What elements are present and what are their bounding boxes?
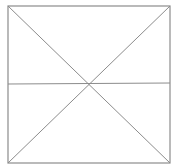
diagram-lines <box>8 6 170 163</box>
diagram-canvas <box>0 0 180 168</box>
horizontal-midline-line <box>8 83 170 84</box>
